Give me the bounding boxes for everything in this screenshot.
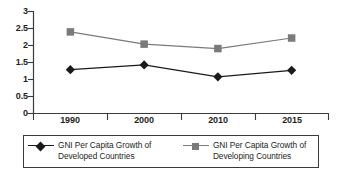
legend-square-marker-icon	[183, 140, 209, 151]
data-point-diamond[interactable]	[140, 60, 149, 69]
series-layer	[66, 28, 296, 81]
data-point-diamond[interactable]	[66, 65, 75, 74]
x-tick-label-2000: 2000	[107, 116, 181, 125]
data-point-square[interactable]	[67, 28, 75, 36]
legend-label-developing: GNI Per Capita Growth ofDeveloping Count…	[213, 140, 306, 162]
chart-figure: 3 2.5 2 1.5 1 0.5 0	[0, 0, 341, 179]
series-line	[70, 65, 291, 77]
x-axis-label-group: 1990 2000 2010 2015	[33, 116, 329, 132]
legend-label-developed-line1: GNI Per Capita Growth of	[58, 140, 151, 150]
x-tick-label-1990: 1990	[33, 116, 107, 125]
data-point-diamond[interactable]	[213, 72, 222, 81]
legend-item-developing[interactable]: GNI Per Capita Growth ofDeveloping Count…	[177, 136, 318, 162]
x-tick-label-2010: 2010	[181, 116, 255, 125]
data-point-diamond[interactable]	[287, 66, 296, 75]
y-tick-marks	[28, 12, 34, 114]
legend-label-developing-line1: GNI Per Capita Growth of	[213, 140, 306, 150]
legend-label-developed-line2: Developed Countries	[58, 151, 135, 161]
series-developed	[66, 60, 296, 81]
series-developing	[67, 28, 296, 52]
legend-diamond-marker-icon	[28, 140, 54, 151]
data-point-square[interactable]	[140, 40, 148, 48]
data-point-square[interactable]	[288, 34, 296, 42]
legend-label-developing-line2: Developing Countries	[213, 151, 291, 161]
x-tick-label-2015: 2015	[255, 116, 329, 125]
series-line	[70, 32, 291, 49]
legend-item-developed[interactable]: GNI Per Capita Growth ofDeveloped Countr…	[24, 136, 177, 162]
data-point-square[interactable]	[214, 45, 222, 53]
chart-legend: GNI Per Capita Growth ofDeveloped Countr…	[23, 135, 319, 168]
legend-label-developed: GNI Per Capita Growth ofDeveloped Countr…	[58, 140, 151, 162]
axis-group	[27, 11, 329, 120]
